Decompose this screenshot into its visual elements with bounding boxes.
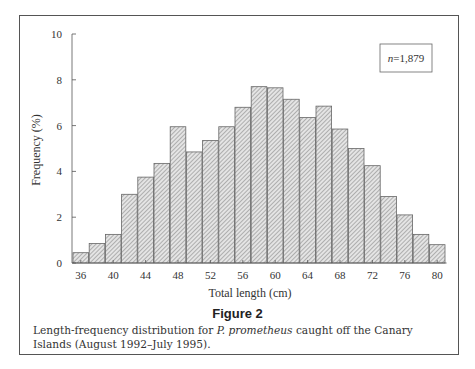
bar-62 (284, 99, 300, 263)
bar-42 (122, 194, 138, 263)
y-tick-label: 8 (57, 74, 63, 86)
x-tick-label: 52 (205, 269, 216, 281)
sample-size-box: n=1,879 (380, 44, 432, 72)
bar-38 (89, 244, 105, 263)
bar-76 (397, 215, 413, 263)
x-tick-label: 76 (399, 269, 411, 281)
bar-68 (332, 129, 348, 263)
bar-52 (203, 140, 219, 263)
y-tick-label: 10 (51, 28, 63, 40)
bar-70 (348, 149, 364, 264)
x-tick-label: 68 (335, 269, 347, 281)
bar-50 (186, 152, 202, 263)
x-tick-label: 64 (302, 269, 314, 281)
bar-46 (154, 163, 170, 263)
y-axis-title: Frequency (%) (29, 114, 43, 186)
x-tick-label: 40 (108, 269, 120, 281)
bar-54 (219, 127, 235, 263)
bar-66 (316, 106, 332, 263)
caption-text-start: Length-frequency distribution for (33, 324, 217, 336)
y-tick-label: 0 (57, 257, 63, 269)
y-tick-label: 6 (57, 120, 63, 132)
bar-74 (381, 197, 397, 263)
x-tick-label: 60 (270, 269, 282, 281)
x-axis-title: Total length (cm) (208, 286, 291, 300)
x-tick-label: 44 (140, 269, 152, 281)
bar-72 (365, 166, 381, 263)
bar-64 (300, 118, 316, 263)
y-tick-label: 2 (57, 211, 63, 223)
bars-group (73, 87, 445, 263)
n-value: =1,879 (393, 52, 424, 64)
bar-48 (170, 127, 186, 263)
svg-text:n=1,879: n=1,879 (388, 52, 425, 64)
bar-40 (105, 234, 121, 263)
caption-species: P. prometheus (217, 324, 293, 336)
x-tick-label: 72 (367, 269, 378, 281)
x-tick-label: 36 (75, 269, 87, 281)
y-tick-label: 4 (57, 165, 63, 177)
figure-title: Figure 2 (0, 306, 475, 321)
bar-56 (235, 107, 251, 263)
bar-60 (267, 88, 283, 263)
bar-44 (138, 177, 154, 263)
bar-58 (251, 87, 267, 263)
bar-78 (413, 234, 429, 263)
x-tick-label: 80 (432, 269, 444, 281)
figure-caption: Length-frequency distribution for P. pro… (33, 323, 453, 351)
x-tick-label: 48 (173, 269, 185, 281)
x-tick-label: 56 (237, 269, 249, 281)
